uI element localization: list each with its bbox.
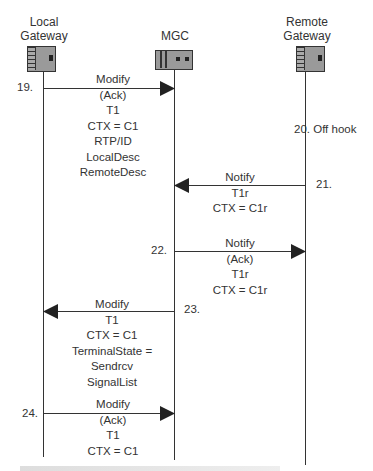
arrowhead-right-icon [160,406,175,421]
arrowhead-left-icon [174,178,189,193]
port-strip-icon [28,47,36,70]
label-line: SignalList [58,375,166,391]
label-line: Notify [196,170,284,186]
label-line: (Ack) [69,88,157,104]
mgc-lifeline [174,70,175,460]
label-line: LocalDesc [69,150,157,166]
step-number: 24. [22,407,38,419]
step-number: 23. [184,303,200,315]
label-line: CTX = C1 [69,119,157,135]
label-line: T1r [196,186,284,202]
message-label-24: Modify (Ack) T1 CTX = C1 [69,397,157,459]
mgc-divider [165,51,167,68]
message-label-21: Notify T1r CTX = C1r [196,170,284,217]
label-line: Notify [196,236,284,252]
label-line: Sendrcv [58,359,166,375]
step-number: 22. [151,244,167,256]
step-number: 21. [316,178,332,190]
label-line: CTX = C1r [196,283,284,299]
label-line: (Ack) [69,413,157,429]
message-label-23: Modify T1 CTX = C1 TerminalState = Sendr… [58,297,166,390]
port-strip-icon [297,47,305,70]
label-line: T1 [69,428,157,444]
led-icon [49,55,53,61]
mgc-label: MGC [145,29,205,43]
arrowhead-left-icon [43,304,58,319]
local-gateway-label-line1: Local [12,15,76,29]
remote-gateway-label-line1: Remote [272,15,342,29]
message-label-22: Notify (Ack) T1r CTX = C1r [196,236,284,298]
figure-caption-cropped [20,466,280,471]
label-line: CTX = C1 [58,328,166,344]
step-number: 19. [17,81,33,93]
label-line: TerminalState = [58,344,166,360]
label-line: Modify [69,397,157,413]
mgc-device-icon [155,50,193,70]
label-line: Modify [58,297,166,313]
mgc-divider [160,51,162,68]
message-label-19: Modify (Ack) T1 CTX = C1 RTP/ID LocalDes… [69,72,157,181]
local-gateway-lifeline [43,72,44,457]
label-line: CTX = C1 [69,444,157,460]
arrowhead-right-icon [160,81,175,96]
local-gateway-label: Local Gateway [12,15,76,43]
arrowhead-right-icon [291,244,306,259]
led-icon [176,57,180,61]
label-line: Modify [69,72,157,88]
label-line: CTX = C1r [196,201,284,217]
remote-gateway-device-icon [296,46,325,72]
local-gateway-device-icon [27,46,56,72]
event-off-hook: 20. Off hook [294,123,356,135]
local-gateway-label-line2: Gateway [12,29,76,43]
label-line: T1r [196,267,284,283]
led-icon [185,57,189,61]
label-line: T1 [58,313,166,329]
label-line: (Ack) [196,252,284,268]
led-icon [318,55,322,61]
label-line: RTP/ID [69,134,157,150]
remote-gateway-label: Remote Gateway [272,15,342,43]
label-line: RemoteDesc [69,165,157,181]
remote-gateway-label-line2: Gateway [272,29,342,43]
label-line: T1 [69,103,157,119]
